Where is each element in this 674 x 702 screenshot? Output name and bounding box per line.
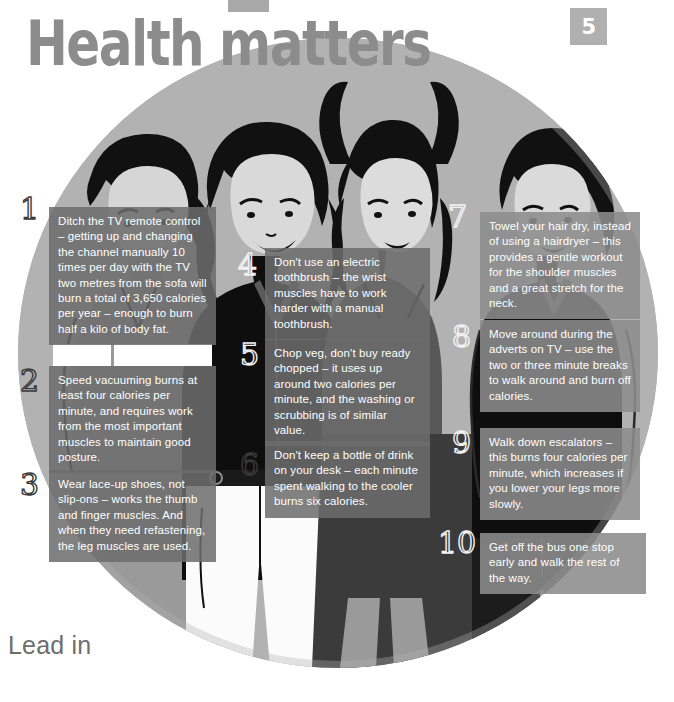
page-title: Health matters [26,12,431,75]
tip-box-10: Get off the bus one stop early and walk … [480,533,646,594]
tip-box-4: Don't use an electric toothbrush – the w… [265,248,430,340]
tip-box-9: Walk down escalators – this burns four c… [480,428,640,520]
tip-box-6: Don't keep a bottle of drink on your des… [265,441,430,518]
garment-highlight-patch [53,344,111,366]
page-root: 5 [0,0,674,702]
tip-box-1: Ditch the TV remote control – getting up… [49,207,216,345]
tip-number-1: 1 [20,194,39,224]
garment-highlight-patch-2 [114,344,212,366]
tip-number-8: 8 [452,322,471,352]
tip-box-2: Speed vacuuming burns at least four calo… [49,366,216,473]
tip-number-7: 7 [448,202,467,232]
tip-number-6: 6 [240,450,259,480]
tip-number-4: 4 [238,250,257,280]
tip-number-2: 2 [20,366,39,396]
tip-box-5: Chop veg, don't buy ready chopped – it u… [265,339,430,446]
lead-in-heading: Lead in [8,631,91,660]
tip-box-7: Towel your hair dry, instead of using a … [480,212,640,319]
tip-number-10: 10 [438,528,476,558]
tip-number-3: 3 [20,470,39,500]
tip-number-9: 9 [452,428,471,458]
tip-box-3: Wear lace-up shoes, not slip-ons – works… [49,470,216,562]
tip-number-5: 5 [240,340,259,370]
tip-box-8: Move around during the adverts on TV – u… [480,320,640,412]
